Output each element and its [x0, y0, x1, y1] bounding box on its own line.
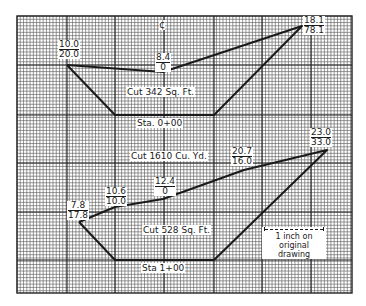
station-label: Sta. 0+00 — [136, 118, 183, 128]
elevation-label: 8.40 — [155, 53, 171, 72]
scale-bar — [264, 227, 324, 231]
elevation-label: 20.716.0 — [231, 147, 253, 166]
area-label: Cut 342 Sq. Ft. — [126, 87, 195, 97]
elevation-label: 12.40 — [154, 177, 176, 196]
centerline-symbol: ¢ — [159, 20, 165, 30]
elevation-label: 10.610.0 — [105, 187, 127, 206]
area-label: Cut 528 Sq. Ft. — [142, 225, 211, 235]
elevation-label: 10.020.0 — [58, 40, 80, 59]
scale-line1: 1 inch on — [264, 232, 324, 241]
scale-line2: original drawing — [264, 241, 324, 259]
elevation-label: 23.033.0 — [310, 128, 332, 147]
volume-label: Cut 1610 Cu. Yd. — [130, 151, 208, 161]
elevation-label: 7.817.8 — [67, 201, 89, 220]
station-label: Sta 1+00 — [141, 263, 185, 273]
elevation-label: 18.178.1 — [303, 16, 325, 35]
cross-section-drawing: ¢ 10.020.0 8.40 18.178.1 Cut 342 Sq. Ft.… — [0, 0, 366, 306]
scale-note: 1 inch on original drawing — [262, 227, 326, 259]
